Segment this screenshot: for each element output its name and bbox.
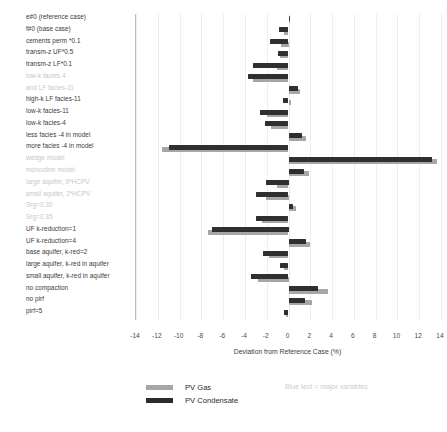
gridline <box>245 14 246 320</box>
bar-pv-condensate <box>278 51 289 56</box>
x-tick-label: 12 <box>415 332 422 339</box>
x-tick-label: 14 <box>436 332 443 339</box>
gridline <box>419 14 420 320</box>
category-label: e#0 (reference case) <box>26 13 124 21</box>
category-label: wedge model <box>26 154 124 162</box>
bar-pv-condensate <box>289 157 433 162</box>
gridline <box>441 14 442 320</box>
gridline <box>397 14 398 320</box>
category-label: Srg=0.30 <box>26 201 124 209</box>
category-label: transm-z UF*0.5 <box>26 48 124 56</box>
gridline <box>354 14 355 320</box>
x-tick-label: -6 <box>219 332 225 339</box>
x-tick-label: -14 <box>130 332 140 339</box>
x-axis: -14-12-10-8-6-4-202468101214 <box>135 320 440 338</box>
x-tick-label: 10 <box>393 332 400 339</box>
bar-pv-condensate <box>284 310 288 315</box>
category-label: more facies -4 in model <box>26 142 124 150</box>
x-tick-label: 4 <box>329 332 333 339</box>
plot-area <box>135 14 440 320</box>
legend-note: Blue text = major variables <box>285 383 368 390</box>
bar-pv-condensate <box>289 286 318 291</box>
category-label: base aquifer, k-red=2 <box>26 248 124 256</box>
bar-pv-condensate <box>266 180 289 185</box>
zero-line <box>289 14 290 320</box>
gridline <box>180 14 181 320</box>
x-tick-label: -10 <box>174 332 184 339</box>
category-label: low-k facies-4 <box>26 72 124 80</box>
x-tick-label: -2 <box>263 332 269 339</box>
bar-pv-condensate <box>265 121 289 126</box>
category-label: monocline model <box>26 166 124 174</box>
category-label: small aquifer, k-red in aquifer <box>26 272 124 280</box>
legend-swatch-pv-gas <box>146 385 173 390</box>
legend-label-pv-gas: PV Gas <box>185 383 211 392</box>
tornado-chart-figure: e#0 (reference case)f#0 (base case)cemen… <box>0 0 447 432</box>
category-label: and LF facies-11 <box>26 84 124 92</box>
gridline <box>158 14 159 320</box>
x-axis-title: Deviation from Reference Case (%) <box>135 348 440 355</box>
bar-pv-condensate <box>289 204 293 209</box>
bar-pv-condensate <box>169 145 289 150</box>
x-tick-label: -8 <box>197 332 203 339</box>
category-label: less facies -4 in model <box>26 131 124 139</box>
bar-pv-condensate <box>289 16 290 21</box>
category-label: UF k-reduction=1 <box>26 225 124 233</box>
category-label: high-k LF facies-11 <box>26 95 124 103</box>
category-label: no compaction <box>26 284 124 292</box>
x-tick-label: 8 <box>373 332 377 339</box>
bar-pv-condensate <box>256 216 289 221</box>
bar-pv-condensate <box>253 63 289 68</box>
bar-pv-condensate <box>248 74 288 79</box>
gridline <box>376 14 377 320</box>
category-label: f#0 (base case) <box>26 25 124 33</box>
x-tick-label: 2 <box>307 332 311 339</box>
category-label: large aquifer, k-red in aquifer <box>26 260 124 268</box>
category-label: pirf=5 <box>26 307 124 315</box>
category-label: Srg=0.35 <box>26 213 124 221</box>
category-label: transm-z LF*0.1 <box>26 60 124 68</box>
bar-pv-condensate <box>256 192 289 197</box>
gridline <box>310 14 311 320</box>
bar-pv-gas <box>289 100 291 105</box>
bar-pv-condensate <box>289 239 306 244</box>
category-label: low-k facies-4 <box>26 119 124 127</box>
bar-pv-condensate <box>280 263 289 268</box>
gridline <box>136 14 137 320</box>
category-label: cements perm *0.1 <box>26 37 124 45</box>
bar-pv-condensate <box>251 274 288 279</box>
bar-pv-condensate <box>212 227 288 232</box>
category-label: large aquifer, 9*HCPV <box>26 178 124 186</box>
legend-label-pv-condensate: PV Condensate <box>185 396 238 405</box>
x-tick-label: -4 <box>241 332 247 339</box>
bar-pv-condensate <box>260 110 288 115</box>
category-label: low-k facies-11 <box>26 107 124 115</box>
bar-pv-condensate <box>289 133 302 138</box>
bar-pv-condensate <box>289 169 304 174</box>
gridline <box>223 14 224 320</box>
legend-item-pv-condensate: PV Condensate <box>146 394 436 407</box>
category-label: UF k-reduction=4 <box>26 237 124 245</box>
bar-pv-condensate <box>289 298 305 303</box>
bar-pv-condensate <box>289 86 299 91</box>
category-label: small aquifer, 2*HCPV <box>26 190 124 198</box>
gridline <box>332 14 333 320</box>
category-label-column: e#0 (reference case)f#0 (base case)cemen… <box>0 14 130 320</box>
x-tick-label: -12 <box>152 332 162 339</box>
legend-swatch-pv-condensate <box>146 398 173 403</box>
bar-pv-condensate <box>263 251 288 256</box>
bar-pv-condensate <box>279 27 289 32</box>
x-tick-label: 6 <box>351 332 355 339</box>
bar-pv-condensate <box>283 98 288 103</box>
gridline <box>201 14 202 320</box>
category-label: no pirf <box>26 295 124 303</box>
x-tick-label: 0 <box>286 332 290 339</box>
bar-pv-condensate <box>270 39 289 44</box>
